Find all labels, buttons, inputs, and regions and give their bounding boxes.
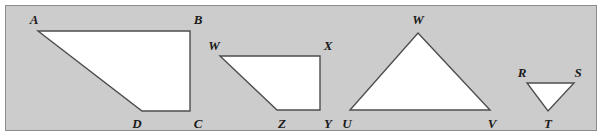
vertex-label-u: U bbox=[342, 117, 351, 130]
vertex-label-s: S bbox=[574, 66, 581, 79]
shape-triangle-uvw bbox=[350, 33, 490, 110]
figure-container: A B C D W X Y Z W V U R S T bbox=[0, 0, 614, 140]
vertex-label-c: C bbox=[194, 117, 203, 130]
vertex-label-v: V bbox=[488, 117, 497, 130]
shape-quadrilateral-wxyz bbox=[220, 56, 320, 110]
vertex-label-d: D bbox=[132, 117, 141, 130]
vertex-label-z: Z bbox=[278, 117, 286, 130]
shape-quadrilateral-abcd bbox=[38, 31, 190, 111]
vertex-label-w-triangle: W bbox=[412, 13, 424, 26]
vertex-label-a: A bbox=[30, 13, 39, 26]
vertex-label-x: X bbox=[324, 39, 333, 52]
vertex-label-y: Y bbox=[324, 117, 332, 130]
vertex-label-w-quad: W bbox=[208, 39, 220, 52]
vertex-label-r: R bbox=[518, 66, 527, 79]
shape-triangle-rst bbox=[527, 83, 574, 111]
vertex-label-t: T bbox=[544, 117, 552, 130]
vertex-label-b: B bbox=[194, 13, 203, 26]
